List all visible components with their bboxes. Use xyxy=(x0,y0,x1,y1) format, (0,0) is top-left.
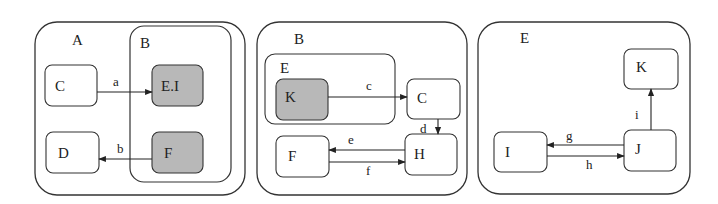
state-f xyxy=(276,136,329,177)
state-a-title: A xyxy=(72,32,83,48)
state-k xyxy=(276,79,328,120)
transition-f-label: f xyxy=(366,163,371,178)
state-h xyxy=(405,134,457,175)
state-c xyxy=(45,65,97,106)
state-f-label: F xyxy=(164,145,172,161)
state-i-label: I xyxy=(505,144,510,160)
transition-i-label: i xyxy=(635,107,639,122)
statechart-diagram: A B C D E.I F a b B E K C H F c d xyxy=(0,0,718,204)
transition-h-label: h xyxy=(586,157,593,172)
panel-e: E K I J g h i xyxy=(478,22,690,194)
state-e-i-label: E.I xyxy=(161,78,179,94)
panel-a: A B C D E.I F a b xyxy=(35,22,245,195)
transition-d-label: d xyxy=(420,121,427,136)
transition-g-label: g xyxy=(566,128,573,143)
state-j-label: J xyxy=(635,141,641,157)
transition-c-label: c xyxy=(366,78,372,93)
state-e-title: E xyxy=(520,30,529,46)
state-h-label: H xyxy=(414,146,425,162)
state-f-label: F xyxy=(288,148,296,164)
state-c-label: C xyxy=(417,90,427,106)
state-d xyxy=(46,132,99,173)
transition-a-label: a xyxy=(113,74,119,89)
state-c xyxy=(407,79,460,119)
transition-e-label: e xyxy=(348,132,354,147)
state-e-title: E xyxy=(280,60,289,76)
state-k-label: K xyxy=(636,59,647,75)
state-k-label: K xyxy=(285,89,296,105)
panel-b: B E K C H F c d e f xyxy=(257,22,467,195)
state-b-title: B xyxy=(140,35,150,51)
transition-b-label: b xyxy=(117,141,124,156)
state-d-label: D xyxy=(58,145,69,161)
state-f xyxy=(152,132,203,173)
state-c-label: C xyxy=(55,78,65,94)
state-k xyxy=(624,49,678,89)
state-i xyxy=(494,132,547,172)
state-b-title: B xyxy=(294,31,304,47)
state-j xyxy=(624,130,676,171)
